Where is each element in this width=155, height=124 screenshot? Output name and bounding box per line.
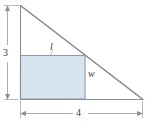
figure-canvas bbox=[0, 0, 155, 124]
base-dimension-label: 4 bbox=[76, 108, 81, 118]
rectangle-length-label: l bbox=[50, 42, 53, 52]
geometry-figure: 3 4 l w bbox=[0, 0, 155, 124]
rectangle-width-label: w bbox=[88, 69, 95, 79]
inscribed-rectangle bbox=[21, 56, 86, 100]
height-dimension-label: 3 bbox=[3, 48, 8, 58]
